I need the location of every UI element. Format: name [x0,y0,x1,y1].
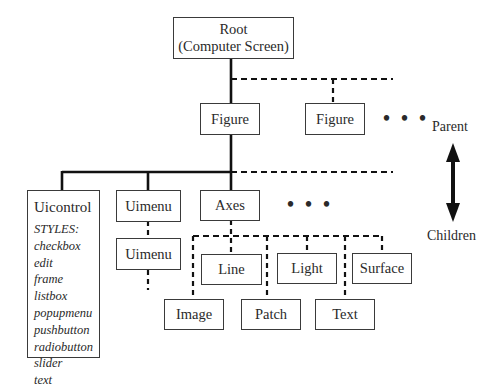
text-label: Text [332,306,358,323]
style-item: text [34,372,99,388]
style-item: frame [34,271,99,288]
surface-label: Surface [360,260,404,277]
figure-node-2: Figure [305,103,365,135]
line-label: Line [218,261,245,278]
axes-node: Axes [200,190,260,221]
style-item: edit [34,255,99,272]
light-node: Light [277,253,337,284]
figure-label: Figure [316,111,354,128]
patch-node: Patch [241,299,301,330]
surface-node: Surface [352,253,412,284]
text-node: Text [315,299,375,330]
patch-label: Patch [255,306,287,323]
children-label: Children [427,228,476,244]
uicontrol-title: Uicontrol [34,199,99,216]
figure-node: Figure [200,103,260,135]
root-sublabel: (Computer Screen) [178,38,289,55]
root-node: Root (Computer Screen) [173,17,294,59]
style-item: slider [34,355,99,372]
uimenu-label: Uimenu [125,198,172,215]
style-item: pushbutton [34,322,99,339]
figure-label: Figure [211,111,249,128]
style-item: popupmenu [34,305,99,322]
ellipsis-figures: • • • [383,113,429,123]
axes-label: Axes [215,197,245,214]
double-arrow-icon [446,143,460,222]
root-label: Root [219,21,247,38]
image-node: Image [164,299,224,330]
style-item: checkbox [34,238,99,255]
parent-label: Parent [432,119,468,135]
styles-label: STYLES: [34,221,99,238]
light-label: Light [291,260,322,277]
uimenu-child-label: Uimenu [125,246,172,263]
ellipsis-axes: • • • [287,199,333,209]
image-label: Image [176,306,212,323]
uimenu-node: Uimenu [116,190,181,222]
style-item: radiobutton [34,339,99,356]
uicontrol-node: Uicontrol STYLES: checkbox edit frame li… [27,190,100,358]
style-item: listbox [34,288,99,305]
line-node: Line [201,254,262,285]
uimenu-child-node: Uimenu [116,238,181,270]
